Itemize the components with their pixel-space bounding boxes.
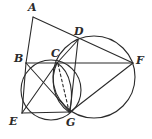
point-label-F: F [136, 55, 144, 66]
point-label-C: C [51, 48, 60, 59]
lens-left-arc [53, 63, 69, 112]
right-circle [53, 36, 135, 118]
geometry-diagram [0, 0, 152, 139]
point-label-B: B [14, 53, 23, 64]
point-label-A: A [28, 2, 37, 13]
segment-EG [22, 112, 70, 113]
segment-AF [33, 17, 133, 63]
point-label-E: E [9, 116, 17, 127]
segment-BG [26, 63, 70, 112]
segment-AB [26, 17, 33, 63]
segment-CE [22, 63, 57, 113]
point-label-D: D [74, 26, 84, 37]
geometry-figure: A B C D E F G [0, 0, 152, 139]
point-label-G: G [66, 117, 75, 128]
segment-CD [57, 40, 78, 63]
